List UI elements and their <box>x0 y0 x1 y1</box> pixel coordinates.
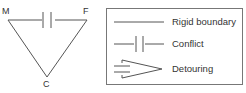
node-label-c: C <box>43 80 50 89</box>
legend-label-detouring: Detouring <box>172 64 213 74</box>
triangle-diagram <box>8 12 87 77</box>
detouring-icon <box>114 60 162 78</box>
diagram-canvas <box>0 0 246 93</box>
edge-m-c <box>8 20 47 77</box>
conflict-icon <box>114 36 164 52</box>
legend-label-rigid-boundary: Rigid boundary <box>172 17 236 27</box>
edge-f-c <box>47 20 87 77</box>
legend-label-conflict: Conflict <box>172 39 204 49</box>
node-label-m: M <box>2 7 10 16</box>
node-label-f: F <box>83 7 89 16</box>
